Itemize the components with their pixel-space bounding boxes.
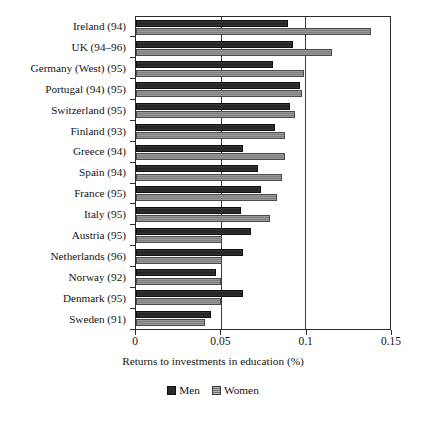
legend-swatch-men-icon — [167, 386, 176, 395]
bar-men — [136, 41, 293, 48]
bar-women — [136, 49, 332, 56]
bar-row — [136, 287, 390, 308]
legend-swatch-women-icon — [212, 386, 221, 395]
bar-women — [136, 28, 371, 35]
value-axis-label: 0.05 — [210, 336, 230, 348]
bar-men — [136, 145, 243, 152]
bar-row — [136, 17, 390, 38]
bar-women — [136, 70, 304, 77]
value-axis-label: 0 — [132, 336, 138, 348]
category-label: Finland (93) — [0, 121, 131, 142]
bar-men — [136, 61, 273, 68]
bar-row — [136, 38, 390, 59]
bar-men — [136, 103, 290, 110]
value-axis-labels: 00.050.10.15 — [0, 336, 426, 352]
chart-legend: MenWomen — [0, 384, 426, 396]
category-label: Austria (95) — [0, 225, 131, 246]
chart-figure: Ireland (94)UK (94–96)Germany (West) (95… — [0, 0, 426, 422]
category-axis-labels: Ireland (94)UK (94–96)Germany (West) (95… — [0, 16, 131, 330]
bar-women — [136, 278, 221, 285]
category-label: Germany (West) (95) — [0, 58, 131, 79]
bar-women — [136, 215, 270, 222]
legend-entry: Men — [167, 384, 200, 396]
bar-women — [136, 194, 277, 201]
category-label: France (95) — [0, 184, 131, 205]
bar-women — [136, 111, 295, 118]
bar-men — [136, 269, 216, 276]
bar-row — [136, 225, 390, 246]
category-label: Spain (94) — [0, 163, 131, 184]
category-label: Switzerland (95) — [0, 100, 131, 121]
legend-entry: Women — [212, 384, 259, 396]
category-label: Sweden (91) — [0, 309, 131, 330]
bar-men — [136, 228, 251, 235]
bar-men — [136, 20, 288, 27]
legend-label: Women — [224, 384, 259, 396]
bar-men — [136, 165, 258, 172]
bar-row — [136, 142, 390, 163]
bar-row — [136, 308, 390, 329]
bar-row — [136, 183, 390, 204]
legend-label: Men — [179, 384, 200, 396]
bar-women — [136, 90, 302, 97]
bar-row — [136, 121, 390, 142]
category-label: Norway (92) — [0, 267, 131, 288]
category-label: UK (94–96) — [0, 37, 131, 58]
bar-men — [136, 311, 211, 318]
bar-women — [136, 153, 285, 160]
category-label: Netherlands (96) — [0, 246, 131, 267]
bar-men — [136, 124, 275, 131]
bar-row — [136, 100, 390, 121]
bar-rows — [136, 17, 390, 329]
bar-women — [136, 257, 222, 264]
plot-area — [135, 16, 391, 330]
bar-row — [136, 204, 390, 225]
bar-row — [136, 246, 390, 267]
bar-men — [136, 186, 261, 193]
bar-men — [136, 249, 243, 256]
bar-row — [136, 59, 390, 80]
bar-men — [136, 207, 241, 214]
category-label: Italy (95) — [0, 204, 131, 225]
x-axis-caption: Returns to investments in education (%) — [0, 355, 426, 367]
bar-men — [136, 82, 300, 89]
category-label: Denmark (95) — [0, 288, 131, 309]
bar-women — [136, 298, 221, 305]
bar-women — [136, 236, 222, 243]
bar-women — [136, 132, 285, 139]
category-label: Portugal (94) (95) — [0, 79, 131, 100]
bar-row — [136, 79, 390, 100]
bar-row — [136, 267, 390, 288]
bar-row — [136, 163, 390, 184]
value-axis-label: 0.15 — [381, 336, 401, 348]
bar-women — [136, 174, 282, 181]
category-label: Greece (94) — [0, 142, 131, 163]
category-label: Ireland (94) — [0, 16, 131, 37]
bar-women — [136, 319, 205, 326]
bar-men — [136, 290, 243, 297]
value-axis-label: 0.1 — [298, 336, 312, 348]
